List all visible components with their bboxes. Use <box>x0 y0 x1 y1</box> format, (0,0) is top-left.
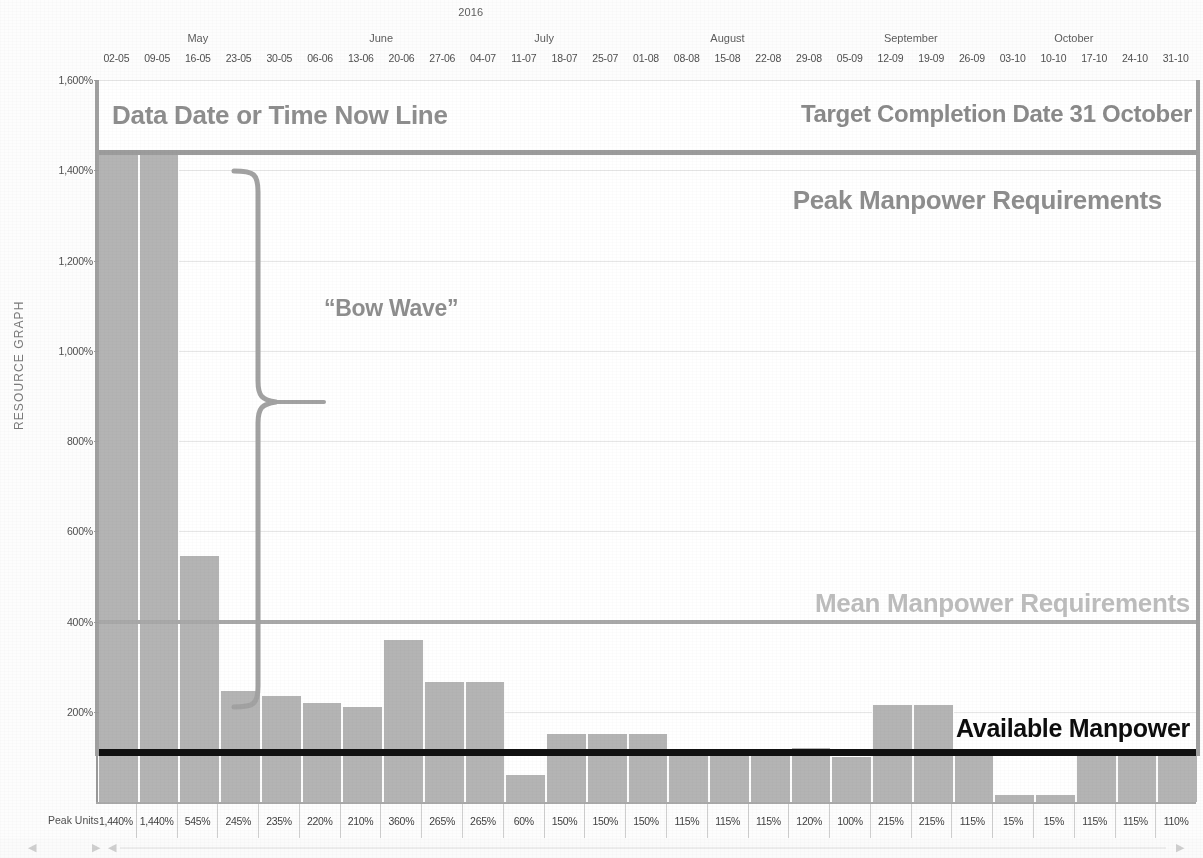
scroll-left-arrow-icon[interactable]: ◀ <box>28 841 36 854</box>
peak-units-cells: 1,440%1,440%545%245%235%220%210%360%265%… <box>96 802 1196 839</box>
scroll-right-arrow-icon[interactable]: ▶ <box>92 841 100 854</box>
date-tick-label: 25-07 <box>585 52 626 64</box>
peak-units-cell: 150% <box>585 804 626 838</box>
peak-units-row: Peak Units 1,440%1,440%545%245%235%220%2… <box>0 802 1203 836</box>
annotation-peak-manpower: Peak Manpower Requirements <box>793 185 1162 216</box>
bow-wave-brace <box>228 166 338 712</box>
bar <box>546 734 587 802</box>
y-axis-tick-label: 1,200% <box>59 255 93 267</box>
date-tick-label: 15-08 <box>707 52 748 64</box>
month-label: June <box>300 32 463 44</box>
peak-units-cell: 115% <box>667 804 708 838</box>
date-tick-label: 06-06 <box>300 52 341 64</box>
y-axis-tick-mark <box>94 531 99 532</box>
date-tick-label: 24-10 <box>1115 52 1156 64</box>
target-completion-line <box>1196 80 1200 756</box>
peak-units-cell: 1,440% <box>96 804 137 838</box>
annotation-mean-manpower: Mean Manpower Requirements <box>815 588 1190 619</box>
bar <box>98 152 139 802</box>
scrollbar-track[interactable] <box>120 847 1166 849</box>
date-tick-label: 30-05 <box>259 52 300 64</box>
peak-units-cell: 15% <box>993 804 1034 838</box>
bar <box>505 775 546 802</box>
peak-units-cell: 115% <box>1075 804 1116 838</box>
peak-units-cell: 15% <box>1034 804 1075 838</box>
y-axis-tick-mark <box>94 351 99 352</box>
y-axis-tick-label: 800% <box>67 435 93 447</box>
month-label: October <box>992 32 1155 44</box>
annotation-data-date: Data Date or Time Now Line <box>112 100 448 131</box>
y-axis-tick-mark <box>94 170 99 171</box>
date-tick-label: 18-07 <box>544 52 585 64</box>
bar <box>831 757 872 802</box>
date-tick-label: 01-08 <box>626 52 667 64</box>
bar <box>954 750 995 802</box>
date-tick-label: 12-09 <box>870 52 911 64</box>
bar <box>383 640 424 802</box>
peak-units-label: Peak Units <box>48 814 99 826</box>
peak-units-cell: 115% <box>1116 804 1157 838</box>
y-axis-tick-label: 1,000% <box>59 345 93 357</box>
date-tick-label: 08-08 <box>666 52 707 64</box>
date-tick-label: 09-05 <box>137 52 178 64</box>
bar <box>628 734 669 802</box>
date-tick-label: 05-09 <box>829 52 870 64</box>
scroll-pane-right-arrow-icon[interactable]: ▶ <box>1176 841 1184 854</box>
available-manpower-line <box>96 749 1198 756</box>
peak-units-cell: 150% <box>626 804 667 838</box>
date-tick-label: 17-10 <box>1074 52 1115 64</box>
data-date-line <box>95 80 99 756</box>
bar <box>668 750 709 802</box>
annotation-bow-wave: “Bow Wave” <box>324 295 458 322</box>
bar <box>465 682 506 802</box>
timescale-header: 2016 MayJuneJulyAugustSeptemberOctober 0… <box>0 0 1203 78</box>
peak-units-cell: 235% <box>259 804 300 838</box>
y-axis-tick-mark <box>94 80 99 81</box>
date-tick-label: 11-07 <box>503 52 544 64</box>
peak-units-cell: 360% <box>381 804 422 838</box>
bar <box>994 795 1035 802</box>
month-label: September <box>829 32 992 44</box>
peak-units-cell: 120% <box>789 804 830 838</box>
peak-units-cell: 115% <box>749 804 790 838</box>
peak-units-cell: 210% <box>341 804 382 838</box>
bar <box>1117 750 1158 802</box>
y-axis-tick-label: 1,600% <box>59 74 93 86</box>
horizontal-scrollbar[interactable]: ◀ ▶ ◀ ▶ <box>0 838 1203 858</box>
date-tick-label: 03-10 <box>992 52 1033 64</box>
plot-inner: Data Date or Time Now Line Target Comple… <box>98 80 1198 802</box>
date-tick-label: 22-08 <box>748 52 789 64</box>
bar <box>709 750 750 802</box>
bar <box>1157 752 1198 802</box>
y-axis-tick-mark <box>94 261 99 262</box>
year-label: 2016 <box>430 6 511 18</box>
chart-plot-area: Data Date or Time Now Line Target Comple… <box>96 80 1198 802</box>
peak-units-cell: 100% <box>830 804 871 838</box>
peak-units-cell: 545% <box>178 804 219 838</box>
y-axis-tick-mark <box>94 712 99 713</box>
y-axis-tick-label: 600% <box>67 525 93 537</box>
date-tick-label: 27-06 <box>422 52 463 64</box>
month-label: May <box>96 32 300 44</box>
y-axis-tick-label: 400% <box>67 616 93 628</box>
peak-units-cell: 60% <box>504 804 545 838</box>
y-axis-tick-mark <box>94 622 99 623</box>
scroll-pane-left-arrow-icon[interactable]: ◀ <box>108 841 116 854</box>
y-axis-tick-label: 200% <box>67 706 93 718</box>
annotation-target-completion: Target Completion Date 31 October <box>801 100 1192 128</box>
date-tick-label: 13-06 <box>340 52 381 64</box>
date-tick-label: 29-08 <box>789 52 830 64</box>
date-tick-label: 23-05 <box>218 52 259 64</box>
y-axis-tick-mark <box>94 441 99 442</box>
date-tick-label: 20-06 <box>381 52 422 64</box>
peak-units-cell: 215% <box>871 804 912 838</box>
bar <box>750 750 791 802</box>
date-tick-label: 26-09 <box>952 52 993 64</box>
month-label: August <box>626 32 830 44</box>
bar <box>179 556 220 802</box>
bar <box>1035 795 1076 802</box>
peak-units-cell: 115% <box>708 804 749 838</box>
date-tick-label: 02-05 <box>96 52 137 64</box>
date-tick-label: 16-05 <box>177 52 218 64</box>
date-tick-label: 10-10 <box>1033 52 1074 64</box>
